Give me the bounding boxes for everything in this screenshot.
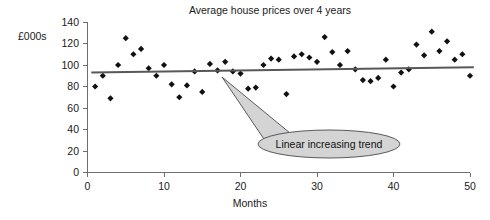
y-tick-label: 140 (61, 16, 79, 28)
data-point (360, 77, 366, 83)
x-axis-ticks (88, 173, 471, 178)
data-point (138, 46, 144, 52)
data-point (253, 84, 259, 90)
data-point (123, 35, 129, 41)
data-point (459, 51, 465, 57)
data-point (429, 29, 435, 35)
y-axis-tick-labels: 0 20 40 60 80 100 120 140 (61, 16, 79, 179)
y-tick-label: 40 (67, 123, 79, 135)
data-point (161, 62, 167, 68)
data-point (130, 51, 136, 57)
y-tick-label: 80 (67, 80, 79, 92)
y-tick-label: 100 (61, 59, 79, 71)
data-point (276, 57, 282, 63)
y-tick-label: 20 (67, 145, 79, 157)
x-tick-label: 50 (464, 180, 476, 192)
data-point (390, 83, 396, 89)
data-point (222, 59, 228, 65)
y-axis-ticks (83, 22, 88, 173)
data-point (207, 61, 213, 67)
x-axis-tick-labels: 0 10 20 30 40 50 (85, 180, 476, 192)
data-point (322, 34, 328, 40)
data-point (153, 73, 159, 79)
x-tick-label: 30 (311, 180, 323, 192)
x-tick-label: 0 (85, 180, 91, 192)
data-point (268, 55, 274, 61)
y-tick-label: 0 (73, 166, 79, 178)
callout-label: Linear increasing trend (276, 138, 383, 150)
data-point (260, 62, 266, 68)
data-point (452, 57, 458, 63)
x-axis-label: Months (233, 197, 267, 209)
data-point (283, 91, 289, 97)
data-point (92, 83, 98, 89)
data-point (467, 73, 473, 79)
data-point (299, 51, 305, 57)
data-point (176, 94, 182, 100)
data-point (314, 59, 320, 65)
data-point (306, 54, 312, 60)
y-tick-label: 120 (61, 37, 79, 49)
data-point (398, 69, 404, 75)
data-point (184, 82, 190, 88)
y-axis-label: £000s (18, 30, 47, 42)
data-point (146, 65, 152, 71)
data-point (100, 73, 106, 79)
data-point (383, 57, 389, 63)
data-point (421, 52, 427, 58)
data-point (115, 62, 121, 68)
x-tick-label: 20 (235, 180, 247, 192)
data-point (413, 41, 419, 47)
x-tick-label: 40 (388, 180, 400, 192)
data-point (375, 75, 381, 81)
data-point (169, 81, 175, 87)
data-point (199, 89, 205, 95)
data-point (329, 49, 335, 55)
data-point (107, 95, 113, 101)
data-points-group (92, 29, 473, 102)
scatter-chart-canvas: Average house prices over 4 years £000s … (0, 0, 490, 220)
y-tick-label: 60 (67, 102, 79, 114)
data-point (367, 78, 373, 84)
x-tick-label: 10 (158, 180, 170, 192)
data-point (337, 62, 343, 68)
data-point (444, 38, 450, 44)
data-point (345, 48, 351, 54)
chart-figure: Average house prices over 4 years £000s … (0, 0, 490, 220)
chart-title: Average house prices over 4 years (189, 4, 351, 16)
data-point (291, 53, 297, 59)
data-point (436, 48, 442, 54)
data-point (245, 86, 251, 92)
